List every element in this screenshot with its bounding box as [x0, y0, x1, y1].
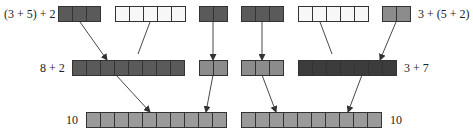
unit-block [171, 61, 185, 76]
label-left-top: (3 + 5) + 2 [4, 7, 56, 21]
label-left-bottom: 10 [66, 113, 78, 127]
unit-block [341, 61, 355, 76]
block-group-bottom-10-right [242, 113, 382, 128]
block-groups [59, 7, 411, 128]
arrow-connector [206, 75, 213, 112]
unit-block [368, 113, 382, 128]
unit-block [327, 61, 341, 76]
unit-block [172, 7, 186, 22]
unit-block [214, 61, 228, 76]
unit-block [115, 113, 129, 128]
unit-block [242, 113, 256, 128]
label-right-mid: 3 + 7 [404, 61, 429, 75]
unit-block [299, 61, 313, 76]
unit-block [115, 61, 129, 76]
arrow-connector [348, 75, 362, 112]
label-right-bottom: 10 [390, 113, 402, 127]
unit-block [214, 7, 228, 22]
unit-block [298, 113, 312, 128]
unit-block [213, 113, 227, 128]
unit-block [383, 61, 397, 76]
label-left-mid: 8 + 2 [40, 61, 65, 75]
unit-block [143, 113, 157, 128]
unit-block [369, 61, 383, 76]
unit-block [312, 113, 326, 128]
block-group-top-3-right [242, 7, 284, 22]
unit-block [171, 113, 185, 128]
unit-block [129, 113, 143, 128]
arrow-connector [380, 22, 396, 60]
unit-block [200, 7, 214, 22]
unit-block [299, 7, 313, 22]
block-group-top-2-left [200, 7, 228, 22]
unit-block [101, 113, 115, 128]
unit-block [143, 61, 157, 76]
line-connector [138, 22, 150, 54]
unit-block [313, 61, 327, 76]
unit-block [73, 7, 87, 22]
arrow-connector [80, 22, 107, 60]
unit-block [101, 61, 115, 76]
unit-block [87, 7, 101, 22]
unit-block [256, 61, 270, 76]
unit-block [242, 7, 256, 22]
unit-block [270, 113, 284, 128]
block-group-top-5-left [116, 7, 186, 22]
unit-block [397, 7, 411, 22]
unit-block [129, 61, 143, 76]
unit-block [355, 61, 369, 76]
arrow-connector [262, 75, 276, 112]
unit-block [200, 61, 214, 76]
unit-block [256, 113, 270, 128]
unit-block [185, 113, 199, 128]
unit-block [256, 7, 270, 22]
unit-block [270, 61, 284, 76]
unit-block [157, 113, 171, 128]
block-group-mid-8-left [73, 61, 185, 76]
unit-block [313, 7, 327, 22]
label-right-top: 3 + (5 + 2) [418, 7, 470, 21]
unit-block [87, 61, 101, 76]
unit-block [73, 61, 87, 76]
unit-block [383, 7, 397, 22]
block-group-top-3-left [59, 7, 101, 22]
block-group-mid-3-right [242, 61, 284, 76]
unit-block [157, 61, 171, 76]
unit-block [59, 7, 73, 22]
unit-block [340, 113, 354, 128]
unit-block [341, 7, 355, 22]
unit-block [199, 113, 213, 128]
block-group-top-5-right [299, 7, 369, 22]
unit-block [284, 113, 298, 128]
block-group-top-2-right [383, 7, 411, 22]
unit-block [326, 113, 340, 128]
unit-block [270, 7, 284, 22]
block-group-mid-7-right [299, 61, 397, 76]
unit-block [130, 7, 144, 22]
unit-block [354, 113, 368, 128]
unit-block [355, 7, 369, 22]
unit-block [144, 7, 158, 22]
unit-block [242, 61, 256, 76]
block-group-bottom-10-left [87, 113, 227, 128]
unit-block [327, 7, 341, 22]
unit-block [87, 113, 101, 128]
line-connector [320, 22, 332, 54]
block-group-mid-2-left [200, 61, 228, 76]
arrow-connector [116, 75, 150, 112]
unit-block [116, 7, 130, 22]
unit-block [158, 7, 172, 22]
